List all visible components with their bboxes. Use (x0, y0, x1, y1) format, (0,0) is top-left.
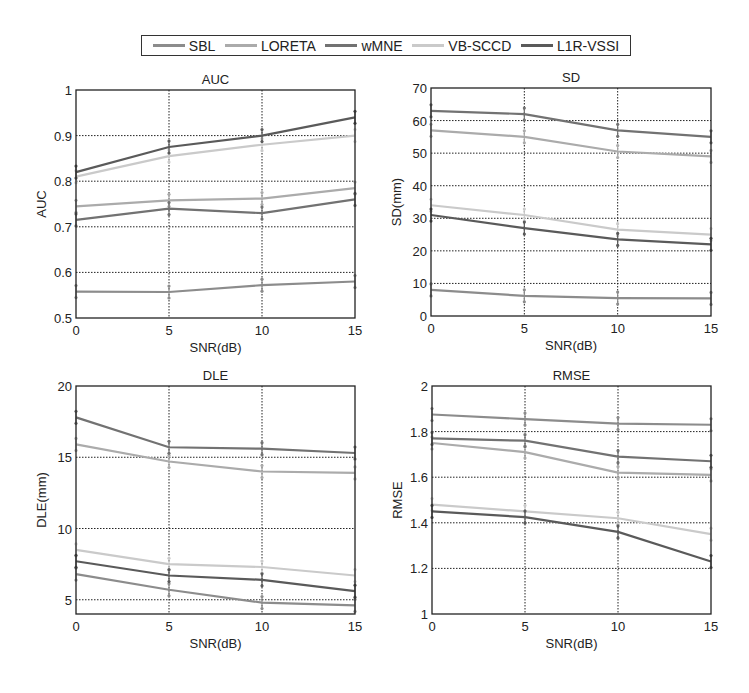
svg-text:10: 10 (610, 321, 624, 336)
svg-text:5: 5 (521, 321, 528, 336)
gridlines (432, 386, 711, 614)
series-l1r-vssi (429, 207, 712, 252)
svg-text:0: 0 (420, 309, 427, 324)
series-l1r-vssi (430, 504, 712, 569)
svg-text:20: 20 (58, 379, 72, 394)
charts-canvas: AUC0.50.60.70.80.91051015SNR(dB)AUC SD01… (0, 0, 749, 693)
svg-text:0.9: 0.9 (54, 129, 72, 144)
x-axis-label: SNR(dB) (189, 340, 241, 355)
series-vb-sccd (74, 128, 356, 184)
series-sbl (430, 407, 712, 432)
chart-title: SD (562, 70, 580, 85)
svg-text:40: 40 (413, 179, 427, 194)
svg-text:0: 0 (72, 323, 79, 338)
svg-text:20: 20 (413, 244, 427, 259)
svg-text:15: 15 (704, 321, 718, 336)
svg-text:15: 15 (348, 619, 362, 634)
series-group (74, 410, 356, 613)
svg-text:0: 0 (427, 321, 434, 336)
series-wmne (429, 103, 712, 144)
svg-text:15: 15 (704, 619, 718, 634)
x-axis-label: SNR(dB) (545, 636, 597, 651)
series-l1r-vssi (74, 110, 356, 180)
series-loreta (74, 437, 356, 481)
svg-text:1.2: 1.2 (410, 561, 428, 576)
series-sbl (74, 567, 356, 614)
y-tick-labels: 11.21.41.61.82 (410, 379, 428, 622)
svg-text:50: 50 (413, 146, 427, 161)
svg-text:5: 5 (65, 593, 72, 608)
chart-title: RMSE (553, 368, 591, 383)
series-vb-sccd (430, 497, 712, 542)
chart-dle: DLE5101520051015SNR(dB)DLE(mm) (34, 368, 362, 651)
svg-text:10: 10 (255, 619, 269, 634)
svg-text:0: 0 (428, 619, 435, 634)
svg-text:60: 60 (413, 114, 427, 129)
svg-text:1.4: 1.4 (410, 516, 428, 531)
series-group (429, 103, 712, 306)
svg-text:5: 5 (165, 619, 172, 634)
svg-text:1: 1 (421, 607, 428, 622)
axes-box (76, 386, 355, 614)
series-wmne (74, 192, 356, 228)
svg-text:10: 10 (255, 323, 269, 338)
svg-text:70: 70 (413, 81, 427, 96)
series-l1r-vssi (74, 554, 356, 599)
x-tick-labels: 051015 (72, 619, 362, 634)
y-axis-label: RMSE (390, 481, 405, 519)
y-tick-labels: 0.50.60.70.80.91 (54, 83, 72, 326)
chart-sd: SD010203040506070051015SNR(dB)SD(mm) (389, 70, 718, 353)
chart-title: DLE (203, 368, 229, 383)
chart-rmse: RMSE11.21.41.61.82051015SNR(dB)RMSE (390, 368, 718, 651)
svg-text:0.8: 0.8 (54, 174, 72, 189)
y-tick-labels: 5101520 (58, 379, 72, 608)
x-tick-labels: 051015 (428, 619, 718, 634)
x-tick-labels: 051015 (427, 321, 718, 336)
gridlines (76, 386, 355, 614)
svg-text:0.6: 0.6 (54, 265, 72, 280)
x-tick-labels: 051015 (72, 323, 362, 338)
svg-text:10: 10 (58, 522, 72, 537)
series-sbl (74, 274, 356, 300)
svg-text:15: 15 (348, 323, 362, 338)
x-axis-label: SNR(dB) (189, 636, 241, 651)
y-axis-label: SD(mm) (389, 178, 404, 226)
svg-text:5: 5 (165, 323, 172, 338)
y-axis-label: DLE(mm) (34, 472, 49, 528)
series-loreta (429, 123, 712, 164)
svg-text:5: 5 (521, 619, 528, 634)
svg-text:1.6: 1.6 (410, 470, 428, 485)
svg-text:0: 0 (72, 619, 79, 634)
svg-text:10: 10 (611, 619, 625, 634)
x-axis-label: SNR(dB) (545, 338, 597, 353)
y-tick-labels: 010203040506070 (413, 81, 427, 324)
series-loreta (74, 180, 356, 213)
svg-text:15: 15 (58, 450, 72, 465)
svg-text:2: 2 (421, 379, 428, 394)
y-axis-label: AUC (34, 190, 49, 217)
svg-text:30: 30 (413, 211, 427, 226)
series-sbl (429, 282, 712, 306)
svg-text:1: 1 (65, 83, 72, 98)
svg-text:10: 10 (413, 276, 427, 291)
svg-text:1.8: 1.8 (410, 425, 428, 440)
chart-title: AUC (202, 72, 229, 87)
chart-auc: AUC0.50.60.70.80.91051015SNR(dB)AUC (34, 72, 362, 355)
svg-text:0.5: 0.5 (54, 311, 72, 326)
series-group (74, 110, 356, 300)
svg-text:0.7: 0.7 (54, 220, 72, 235)
axes-box (432, 386, 711, 614)
